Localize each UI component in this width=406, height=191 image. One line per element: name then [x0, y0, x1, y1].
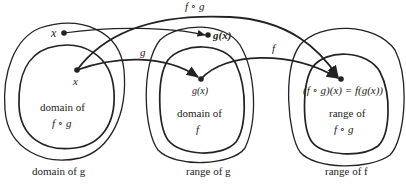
label-arrow-f: f [272, 42, 277, 54]
point-result [338, 76, 344, 82]
label-domain-of-f-1: domain of [177, 107, 222, 119]
label-domain-of-f-2: f [196, 123, 201, 135]
arrow-g [77, 60, 198, 77]
label-domain-of-fog-2: f ∘ g [52, 117, 72, 129]
range-of-fog-outline [305, 54, 389, 154]
label-arrow-fog: f ∘ g [185, 0, 205, 12]
label-domain-of-fog-1: domain of [40, 101, 85, 113]
caption-domain-of-g: domain of g [32, 165, 86, 177]
label-gx-mid: g(x) [192, 85, 209, 97]
label-x-inner: x [72, 75, 78, 87]
caption-range-of-g: range of g [186, 165, 231, 177]
label-range-of-fog-1: range of [329, 107, 366, 119]
domain-of-f-outline [160, 47, 245, 153]
label-gx-top: g(x) [212, 29, 231, 42]
domain-of-fog-outline [19, 45, 114, 148]
label-arrow-g: g [140, 46, 146, 58]
point-gx-top [205, 32, 211, 38]
caption-range-of-f: range of f [325, 165, 368, 177]
label-x-outer: x [50, 26, 57, 40]
domain-of-g-outline [5, 23, 125, 160]
label-range-of-fog-2: f ∘ g [334, 123, 354, 135]
label-result: (f ∘ g)(x) = f(g(x)) [303, 84, 383, 97]
composition-diagram: x x g(x) g(x) (f ∘ g)(x) = f(g(x)) f ∘ g… [0, 0, 406, 191]
